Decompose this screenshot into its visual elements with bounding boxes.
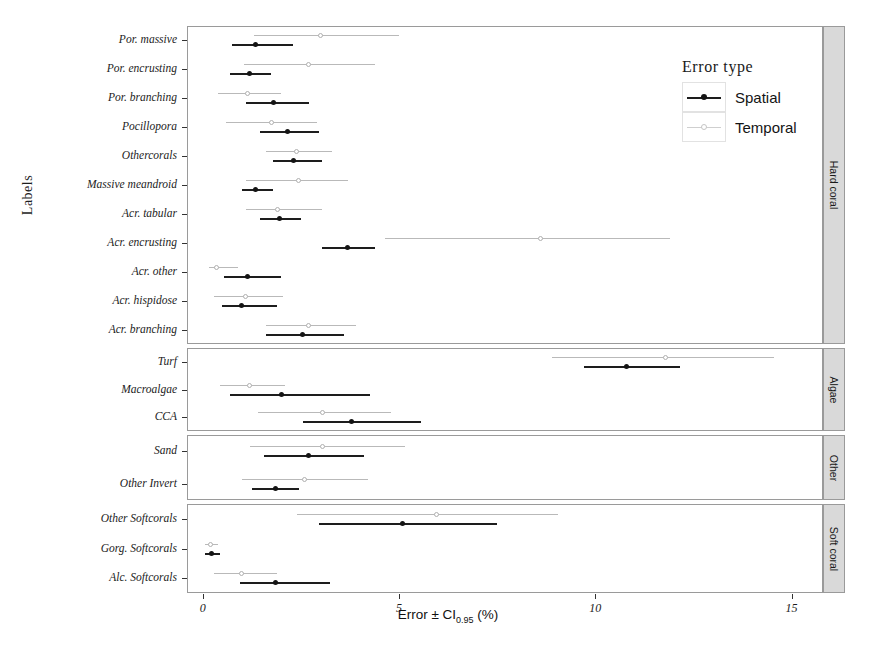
- confidence-interval-spatial: [319, 523, 498, 525]
- data-point-spatial[interactable]: [291, 158, 296, 163]
- confidence-interval-spatial: [222, 305, 277, 307]
- x-axis-tick: [399, 594, 400, 599]
- panel-soft-coral: [187, 504, 823, 593]
- category-label: Pocillopora: [17, 121, 177, 132]
- panel-strip-hard-coral: Hard coral: [823, 26, 845, 344]
- data-point-spatial[interactable]: [273, 486, 278, 491]
- confidence-interval-temporal: [214, 296, 283, 297]
- confidence-interval-temporal: [297, 514, 558, 515]
- data-point-spatial[interactable]: [273, 580, 278, 585]
- category-label: Acr. hispidose: [17, 295, 177, 306]
- category-label: Othercorals: [17, 150, 177, 161]
- category-label: Alc. Softcorals: [17, 572, 177, 583]
- panel-strip-algae: Algae: [823, 348, 845, 431]
- category-label: Por. encrusting: [17, 63, 177, 74]
- data-point-temporal[interactable]: [434, 512, 439, 517]
- confidence-interval-spatial: [584, 366, 680, 368]
- category-label: Other Invert: [17, 478, 177, 489]
- category-label: Other Softcorals: [17, 513, 177, 524]
- category-tick: [182, 549, 187, 550]
- category-label: CCA: [17, 411, 177, 422]
- category-tick: [182, 484, 187, 485]
- category-label: Massive meandroid: [17, 179, 177, 190]
- category-tick: [182, 127, 187, 128]
- confidence-interval-temporal: [246, 209, 323, 210]
- x-axis-tick: [203, 594, 204, 599]
- category-tick: [182, 156, 187, 157]
- category-label: Por. massive: [17, 34, 177, 45]
- data-point-temporal[interactable]: [208, 542, 213, 547]
- category-tick: [182, 69, 187, 70]
- category-tick: [182, 362, 187, 363]
- data-point-temporal[interactable]: [247, 383, 252, 388]
- confidence-interval-spatial: [264, 455, 364, 457]
- legend-item-temporal[interactable]: Temporal: [682, 112, 797, 142]
- category-tick: [182, 390, 187, 391]
- data-point-temporal[interactable]: [306, 323, 311, 328]
- confidence-interval-temporal: [220, 385, 285, 386]
- data-point-spatial[interactable]: [285, 129, 290, 134]
- category-tick: [182, 40, 187, 41]
- data-point-spatial[interactable]: [209, 551, 214, 556]
- confidence-interval-temporal: [209, 267, 238, 268]
- category-tick: [182, 417, 187, 418]
- confidence-interval-temporal: [214, 573, 277, 574]
- panel-strip-label: Soft coral: [828, 526, 840, 570]
- category-tick: [182, 185, 187, 186]
- x-axis-title-unit: (%): [477, 607, 498, 622]
- legend: Error type Spatial Temporal: [682, 58, 797, 142]
- panel-strip-other: Other: [823, 435, 845, 500]
- category-label: Gorg. Softcorals: [17, 543, 177, 554]
- data-point-temporal[interactable]: [275, 207, 280, 212]
- confidence-interval-spatial: [240, 582, 330, 584]
- category-tick: [182, 301, 187, 302]
- legend-key-spatial-icon: [682, 82, 726, 112]
- category-label: Por. branching: [17, 92, 177, 103]
- confidence-interval-temporal: [250, 446, 405, 447]
- category-label: Acr. other: [17, 266, 177, 277]
- legend-label-spatial: Spatial: [735, 89, 781, 106]
- confidence-interval-spatial: [303, 421, 421, 423]
- category-label: Sand: [17, 445, 177, 456]
- x-axis-title-subscript: 0.95: [456, 615, 474, 625]
- category-tick: [182, 272, 187, 273]
- panel-strip-label: Hard coral: [828, 161, 840, 209]
- data-point-spatial[interactable]: [279, 392, 284, 397]
- legend-label-temporal: Temporal: [735, 119, 797, 136]
- panel-strip-label: Algae: [828, 376, 840, 403]
- category-label: Acr. tabular: [17, 208, 177, 219]
- category-tick: [182, 330, 187, 331]
- confidence-interval-spatial: [273, 160, 322, 162]
- x-axis-title: Error ± CI0.95 (%): [0, 607, 896, 625]
- category-tick: [182, 451, 187, 452]
- category-label: Acr. encrusting: [17, 237, 177, 248]
- x-axis-tick: [792, 594, 793, 599]
- legend-item-spatial[interactable]: Spatial: [682, 82, 797, 112]
- category-label: Acr. branching: [17, 324, 177, 335]
- confidence-interval-spatial: [230, 394, 369, 396]
- x-axis-tick: [595, 594, 596, 599]
- category-tick: [182, 98, 187, 99]
- panel-algae: [187, 348, 823, 431]
- category-label: Turf: [17, 356, 177, 367]
- panel-strip-soft-coral: Soft coral: [823, 504, 845, 593]
- legend-key-temporal-icon: [682, 112, 726, 142]
- x-axis-title-text: Error ± CI: [398, 607, 456, 622]
- forest-plot-chart: Labels Hard coralAlgaeOtherSoft coral Po…: [0, 0, 896, 647]
- panel-strip-label: Other: [828, 454, 840, 480]
- category-tick: [182, 214, 187, 215]
- confidence-interval-temporal: [385, 238, 670, 239]
- category-tick: [182, 519, 187, 520]
- data-point-spatial[interactable]: [277, 216, 282, 221]
- data-point-temporal[interactable]: [538, 236, 543, 241]
- category-label: Macroalgae: [17, 384, 177, 395]
- legend-title: Error type: [682, 58, 797, 76]
- confidence-interval-spatial: [224, 276, 281, 278]
- category-tick: [182, 243, 187, 244]
- category-tick: [182, 578, 187, 579]
- data-point-temporal[interactable]: [214, 265, 219, 270]
- panel-other: [187, 435, 823, 500]
- confidence-interval-spatial: [232, 44, 293, 46]
- confidence-interval-spatial: [246, 102, 309, 104]
- data-point-spatial[interactable]: [300, 332, 305, 337]
